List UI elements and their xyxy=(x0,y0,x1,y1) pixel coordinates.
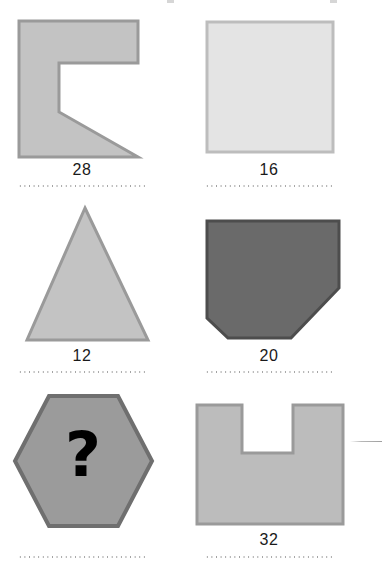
shape-triangle xyxy=(27,208,148,340)
worksheet-sheet: ? 28 16 12 20 32 xyxy=(0,0,382,577)
shape-label-2: 16 xyxy=(205,161,333,179)
shape-cut-corner-pentagon xyxy=(207,221,339,338)
shape-c-bracket-polygon xyxy=(19,21,138,157)
answer-rule-1 xyxy=(18,185,146,187)
answer-rule-6 xyxy=(205,556,333,558)
shapes-canvas xyxy=(0,0,382,577)
shape-label-6: 32 xyxy=(205,531,333,549)
answer-rule-3 xyxy=(18,371,146,373)
question-mark-glyph: ? xyxy=(53,424,113,486)
shape-square xyxy=(207,22,333,152)
answer-rule-4 xyxy=(205,371,333,373)
shape-label-1: 28 xyxy=(18,161,146,179)
shape-label-3: 12 xyxy=(18,347,146,365)
answer-rule-5 xyxy=(18,556,146,558)
answer-rule-2 xyxy=(205,185,333,187)
right-edge-tick xyxy=(350,441,382,442)
shape-u-notched-square xyxy=(197,405,343,524)
shape-label-4: 20 xyxy=(205,347,333,365)
